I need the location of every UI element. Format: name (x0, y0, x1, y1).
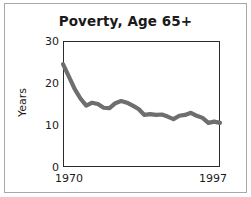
x-tick-label-start: 1970 (55, 172, 83, 185)
y-tick-label-10: 10 (35, 120, 59, 131)
y-axis-tick-labels: 30 20 10 0 (33, 0, 59, 197)
plot-area (63, 41, 220, 167)
chart-figure: Poverty, Age 65+ Years 30 20 10 0 1970 1… (0, 0, 251, 197)
data-series-line (63, 64, 220, 123)
y-axis-label: Years (16, 73, 29, 133)
y-tick-label-20: 20 (35, 78, 59, 89)
y-tick-label-30: 30 (35, 36, 59, 47)
x-tick-label-end: 1997 (199, 172, 227, 185)
